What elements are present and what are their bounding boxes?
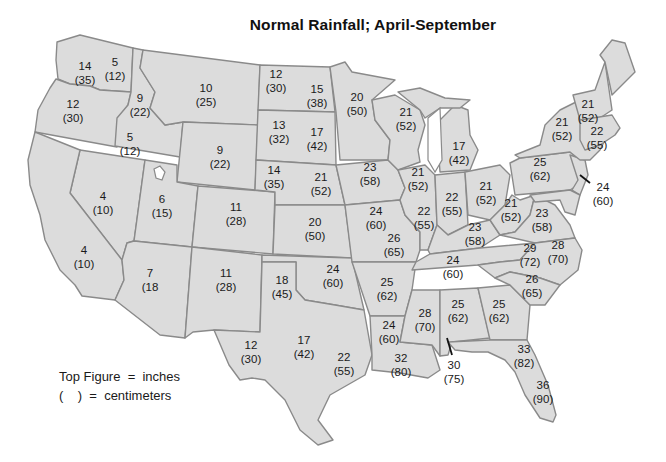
legend-inches: Top Figure = inches [59, 367, 180, 386]
leader-gulf-coast [447, 338, 452, 355]
legend-centimeters: ( ) = centimeters [59, 386, 180, 405]
legend: Top Figure = inches ( ) = centimeters [59, 367, 180, 405]
leader-nj [580, 175, 590, 183]
